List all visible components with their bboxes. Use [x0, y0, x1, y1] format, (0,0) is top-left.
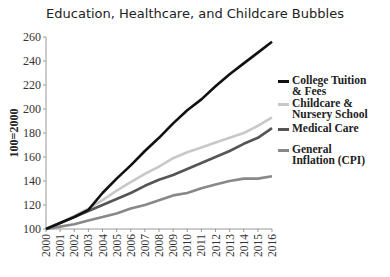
legend-swatch [278, 80, 289, 83]
y-tick-label: 220 [23, 78, 41, 92]
y-tick-label: 260 [23, 30, 41, 44]
line-chart: 1001201401601802002202402602000200120022… [0, 0, 390, 277]
x-tick-label: 2007 [139, 234, 151, 257]
x-tick-label: 2013 [224, 234, 236, 257]
legend-item-childcare: Childcare &Nursery School [292, 98, 368, 120]
y-tick-label: 140 [23, 174, 41, 188]
x-tick-label: 2012 [210, 234, 222, 257]
x-tick-label: 2000 [40, 234, 52, 257]
legend-label: Medical Care [292, 122, 359, 134]
x-tick-label: 2014 [238, 234, 250, 257]
x-tick-label: 2008 [153, 234, 165, 257]
legend-swatch [278, 149, 289, 152]
legend-item-medical-care: Medical Care [292, 123, 359, 134]
x-tick-label: 2004 [97, 234, 109, 257]
legend-label: College Tuition& Fees [292, 74, 366, 97]
y-tick-label: 240 [23, 54, 41, 68]
y-tick-label: 200 [23, 102, 41, 116]
y-axis-label: 100=2000 [7, 109, 21, 158]
legend-swatch [278, 128, 289, 131]
x-tick-label: 2002 [68, 234, 80, 257]
legend-item-cpi: GeneralInflation (CPI) [292, 144, 365, 166]
legend-swatch [278, 103, 289, 106]
legend-label: Childcare &Nursery School [292, 97, 368, 120]
y-tick-label: 120 [23, 198, 41, 212]
y-tick-label: 160 [23, 150, 41, 164]
legend-label: GeneralInflation (CPI) [292, 143, 365, 166]
x-tick-label: 2005 [111, 234, 123, 257]
x-tick-label: 2010 [181, 234, 193, 257]
x-tick-label: 2015 [252, 234, 264, 257]
y-tick-label: 100 [23, 222, 41, 236]
series-line [46, 117, 272, 229]
x-tick-label: 2009 [167, 234, 179, 257]
x-tick-label: 2006 [125, 234, 137, 257]
series-line [46, 176, 272, 229]
x-tick-label: 2016 [266, 234, 278, 257]
y-tick-label: 180 [23, 126, 41, 140]
x-tick-label: 2011 [195, 234, 207, 257]
x-tick-label: 2003 [82, 234, 94, 257]
x-tick-label: 2001 [54, 234, 66, 257]
legend-item-college-tuition: College Tuition& Fees [292, 75, 366, 97]
